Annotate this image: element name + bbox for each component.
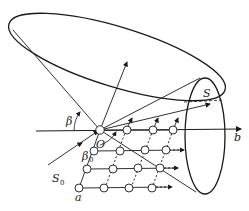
label-axis-a: a (75, 191, 82, 204)
label-beta0: β (81, 150, 88, 163)
beta-arc (74, 112, 80, 131)
laue-cone-diagram: O b a S 0 S β β 0 (0, 0, 249, 211)
label-beta: β (65, 115, 72, 128)
label-origin: O (96, 138, 105, 151)
lattice (75, 118, 184, 192)
label-s0-sub: 0 (60, 179, 64, 187)
large-cone-ellipse (0, 0, 234, 119)
label-s0: S (52, 172, 60, 185)
normal-arrow (100, 62, 127, 130)
label-beta0-sub: 0 (89, 156, 93, 164)
label-axis-b: b (234, 131, 241, 144)
label-s: S (203, 87, 211, 100)
